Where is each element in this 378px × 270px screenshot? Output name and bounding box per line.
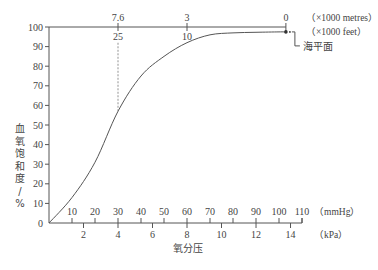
mmhg-tick-label: 100 bbox=[272, 206, 287, 217]
kpa-unit-label: （kPa） bbox=[314, 229, 348, 240]
y-tick-label: 0 bbox=[38, 218, 43, 229]
kpa-tick-label: 8 bbox=[185, 229, 190, 240]
sea-level-label: 海平面 bbox=[303, 40, 333, 52]
feet-unit-label: （×1000 feet） bbox=[306, 26, 367, 37]
y-axis: 0102030405060708090100 bbox=[28, 22, 49, 229]
feet-tick-label: 10 bbox=[182, 31, 192, 42]
metres-tick-label: 0 bbox=[283, 12, 288, 23]
mmhg-tick-label: 20 bbox=[90, 206, 100, 217]
y-axis-title-char: % bbox=[15, 198, 25, 209]
dissociation-curve bbox=[49, 32, 286, 223]
sea-level-leader bbox=[292, 32, 300, 46]
metres-tick-label: 3 bbox=[185, 12, 190, 23]
mmhg-tick-label: 10 bbox=[67, 206, 77, 217]
y-tick-label: 50 bbox=[33, 120, 43, 131]
kpa-tick-label: 2 bbox=[81, 229, 86, 240]
y-tick-label: 20 bbox=[33, 178, 43, 189]
mmhg-tick-label: 80 bbox=[228, 206, 238, 217]
kpa-tick-label: 12 bbox=[251, 229, 261, 240]
y-tick-label: 10 bbox=[33, 198, 43, 209]
y-tick-label: 80 bbox=[33, 61, 43, 72]
feet-tick-label: 25 bbox=[113, 31, 123, 42]
top-altitude-axis: 7.6253100（×1000 metres）（×1000 feet） bbox=[49, 12, 378, 42]
mmhg-tick-label: 40 bbox=[136, 206, 146, 217]
y-axis-title-char: / bbox=[18, 186, 22, 197]
kpa-tick-label: 6 bbox=[150, 229, 155, 240]
oxygen-dissociation-chart: 0102030405060708090100 10203040506070809… bbox=[0, 0, 378, 270]
kpa-tick-label: 4 bbox=[116, 229, 121, 240]
mmhg-tick-label: 110 bbox=[295, 206, 310, 217]
y-axis-title-char: 和 bbox=[15, 161, 25, 172]
y-tick-label: 40 bbox=[33, 139, 43, 150]
plot-area: 海平面 bbox=[49, 30, 333, 223]
y-tick-label: 100 bbox=[28, 22, 43, 33]
x-axis: 102030405060708090100110（mmHg）2468101214… bbox=[49, 206, 360, 240]
mmhg-tick-label: 30 bbox=[113, 206, 123, 217]
x-axis-title: 氧分压 bbox=[173, 242, 203, 254]
y-tick-label: 90 bbox=[33, 41, 43, 52]
y-axis-title-char: 氧 bbox=[15, 135, 25, 147]
metres-unit-label: （×1000 metres） bbox=[306, 12, 378, 23]
kpa-tick-label: 10 bbox=[217, 229, 227, 240]
mmhg-tick-label: 70 bbox=[205, 206, 215, 217]
kpa-tick-label: 14 bbox=[286, 229, 296, 240]
mmhg-unit-label: （mmHg） bbox=[314, 206, 360, 217]
y-tick-label: 70 bbox=[33, 80, 43, 91]
mmhg-tick-label: 90 bbox=[251, 206, 261, 217]
mmhg-tick-label: 50 bbox=[159, 206, 169, 217]
metres-tick-label: 7.6 bbox=[112, 12, 125, 23]
y-tick-label: 30 bbox=[33, 159, 43, 170]
y-tick-label: 60 bbox=[33, 100, 43, 111]
sea-level-dot bbox=[284, 30, 288, 34]
mmhg-tick-label: 60 bbox=[182, 206, 192, 217]
y-axis-title-char: 饱 bbox=[15, 148, 25, 159]
y-axis-title-char: 血 bbox=[15, 122, 25, 134]
axis-labels: 血氧饱和度/%氧分压 bbox=[15, 122, 203, 254]
y-axis-title-char: 度 bbox=[15, 172, 25, 184]
